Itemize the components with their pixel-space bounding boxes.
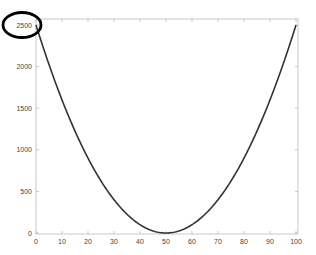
x-tick-label: 20 <box>84 238 92 245</box>
y-tick-label: 1500 <box>16 105 32 112</box>
y-tick-label: 2000 <box>16 63 32 70</box>
parabola-line <box>36 25 296 233</box>
x-tick-label: 70 <box>214 238 222 245</box>
x-tick-label: 50 <box>162 238 170 245</box>
y-tick-label: 1000 <box>16 146 32 153</box>
x-tick-label: 100 <box>290 238 302 245</box>
y-tick-labels: 05001000150020002500 <box>16 22 32 237</box>
x-tick-label: 80 <box>240 238 248 245</box>
y-tick-label: 500 <box>20 188 32 195</box>
x-tick-label: 0 <box>34 238 38 245</box>
x-tick-labels: 0102030405060708090100 <box>34 238 302 245</box>
x-tick-label: 40 <box>136 238 144 245</box>
x-tick-label: 60 <box>188 238 196 245</box>
chart-canvas: 0102030405060708090100 05001000150020002… <box>0 0 316 255</box>
x-tick-label: 90 <box>266 238 274 245</box>
y-tick-label: 2500 <box>16 22 32 29</box>
y-tick-label: 0 <box>28 230 32 237</box>
x-tick-label: 10 <box>58 238 66 245</box>
x-tick-label: 30 <box>110 238 118 245</box>
